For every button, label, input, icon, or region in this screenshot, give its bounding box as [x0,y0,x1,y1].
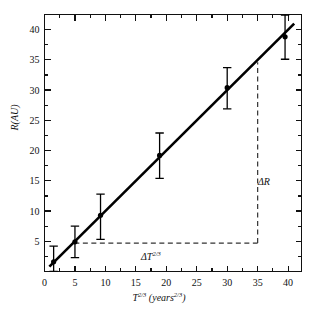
data-point-marker [282,34,287,39]
x-tick-label: 5 [72,277,77,288]
x-tick-label: 30 [222,277,232,288]
x-tick-label: 20 [161,277,171,288]
x-axis-exponent: 2/3 [138,291,146,298]
data-point-group [71,226,79,257]
annotation-delta-t-exponent: 2/3 [152,250,160,257]
x-axis-label: T2/3 (years2/3) [0,291,318,303]
data-point-marker [157,153,162,158]
x-tick-label: 40 [283,277,293,288]
y-axis-label: R(AU) [9,88,20,148]
y-tick-label: 10 [30,206,40,217]
x-axis-unit-open: (years [149,292,174,303]
x-axis-unit-close: ) [182,292,185,303]
y-tick-label: 15 [30,175,40,186]
y-tick-label: 30 [30,85,40,96]
x-tick-label: 10 [100,277,110,288]
data-point-marker [98,213,103,218]
annotation-delta-r: ΔR [258,176,270,187]
x-tick-label: 35 [253,277,263,288]
y-tick-label: 5 [35,236,40,247]
x-tick-label: 25 [192,277,202,288]
scatter-plot: 0510152025303540510152025303540 [0,0,318,313]
data-point-group [96,194,104,239]
y-tick-label: 20 [30,145,40,156]
annotation-delta-t-symbol: ΔT [141,251,152,262]
y-tick-label: 35 [30,54,40,65]
data-point-marker [225,85,230,90]
data-point-marker [72,239,77,244]
x-tick-label: 15 [131,277,141,288]
data-point-marker [51,259,56,264]
x-tick-label: 0 [42,277,47,288]
y-tick-label: 25 [30,115,40,126]
annotation-delta-t: ΔT2/3 [141,250,161,262]
x-axis-unit-exponent: 2/3 [174,291,182,298]
y-axis-unit: (AU) [9,104,20,124]
figure: 0510152025303540510152025303540 R(AU) T2… [0,0,318,313]
y-axis-symbol: R [9,124,20,130]
y-tick-label: 40 [30,24,40,35]
